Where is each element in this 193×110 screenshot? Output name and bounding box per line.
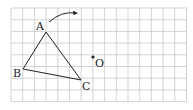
rotation-diagram: A B C O (0, 0, 193, 110)
label-b: B (13, 67, 21, 80)
rotation-arrow-icon (49, 13, 75, 22)
label-c: C (82, 80, 90, 93)
label-a: A (35, 20, 45, 33)
triangle-abc (23, 32, 81, 80)
arrowhead-icon (73, 11, 78, 16)
label-o: O (95, 57, 104, 70)
